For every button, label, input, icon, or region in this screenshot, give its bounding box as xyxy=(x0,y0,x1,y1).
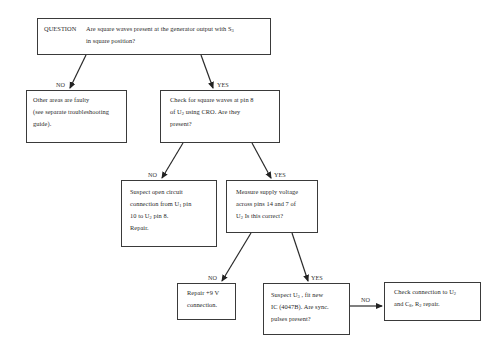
edge-label-question-no: NO xyxy=(56,81,65,88)
check-connection-node: Check connection to U2 and C8, R2 repair… xyxy=(384,282,481,321)
check-pin8-node: Check for square waves at pin 8 of U2 us… xyxy=(160,90,280,143)
other-areas-node: Other areas are faulty (see separate tro… xyxy=(26,90,127,143)
check-connection-text: Check connection to U2 and C8, R2 repair… xyxy=(394,286,456,310)
measure-supply-text: Measure supply voltage across pins 14 an… xyxy=(236,186,298,222)
edge-label-pin8-no: NO xyxy=(148,171,157,178)
check-pin8-text: Check for square waves at pin 8 of U2 us… xyxy=(170,94,254,130)
edge-label-supply-yes: YES xyxy=(311,274,323,281)
repair-9v-node: Repair +9 V connection. xyxy=(177,283,236,320)
suspect-u3-node: Suspect U3 , fit new IC (4047B). Are syn… xyxy=(263,283,350,335)
suspect-open-node: Suspect open circuit connection from U1 … xyxy=(121,180,217,247)
edge-label-question-yes: YES xyxy=(217,81,229,88)
suspect-open-text: Suspect open circuit connection from U1 … xyxy=(130,186,191,234)
edge-pin8-yes xyxy=(252,143,271,178)
edge-question-no xyxy=(70,55,86,88)
edge-supply-no xyxy=(222,233,251,281)
question-node: QUESTION Are square waves present at the… xyxy=(37,18,271,55)
repair-9v-text: Repair +9 V connection. xyxy=(187,287,219,311)
edge-question-yes xyxy=(201,55,213,88)
edge-label-u3-no: NO xyxy=(361,296,370,303)
edge-label-supply-no: NO xyxy=(208,274,217,281)
edge-label-pin8-yes: YES xyxy=(274,171,286,178)
other-areas-text: Other areas are faulty (see separate tro… xyxy=(33,94,109,130)
edge-supply-yes xyxy=(292,233,308,281)
question-keyword: QUESTION xyxy=(44,23,76,35)
suspect-u3-text: Suspect U3 , fit new IC (4047B). Are syn… xyxy=(271,289,329,325)
question-text: Are square waves present at the generato… xyxy=(86,23,234,47)
measure-supply-node: Measure supply voltage across pins 14 an… xyxy=(226,180,318,233)
edge-pin8-no xyxy=(162,143,183,178)
